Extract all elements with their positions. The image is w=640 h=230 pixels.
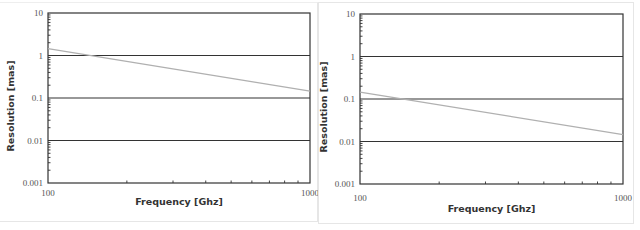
y-tick-label: 10 [34, 8, 44, 18]
x-axis-title: Frequency [Ghz] [135, 196, 223, 207]
chart-left: 1010.10.010.0011001000Frequency [Ghz]Res… [0, 3, 318, 223]
y-tick-label: 0.1 [344, 94, 355, 104]
y-tick-label: 0.001 [23, 178, 43, 188]
x-tick-label: 100 [353, 193, 367, 203]
y-tick-label: 0.001 [335, 179, 355, 189]
y-tick-label: 1 [351, 52, 356, 62]
y-axis-title: Resolution [mas] [5, 60, 16, 151]
y-tick-label: 0.01 [27, 136, 43, 146]
x-tick-label: 1000 [614, 193, 633, 203]
x-tick-label: 100 [41, 188, 55, 198]
chart-panel-right: 1010.10.010.0011001000Frequency [Ghz]Res… [318, 2, 634, 224]
gridlines [48, 56, 310, 141]
chart-panel-left: 1010.10.010.0011001000Frequency [Ghz]Res… [0, 2, 318, 222]
y-tick-label: 0.01 [339, 137, 355, 147]
y-axis-title: Resolution [mas] [319, 61, 329, 152]
y-tick-label: 0.1 [32, 93, 43, 103]
x-axis-title: Frequency [Ghz] [448, 203, 536, 214]
x-tick-label: 1000 [301, 188, 318, 198]
y-tick-label: 10 [346, 9, 356, 19]
y-tick-label: 1 [39, 51, 44, 61]
chart-right: 1010.10.010.0011001000Frequency [Ghz]Res… [319, 3, 635, 225]
